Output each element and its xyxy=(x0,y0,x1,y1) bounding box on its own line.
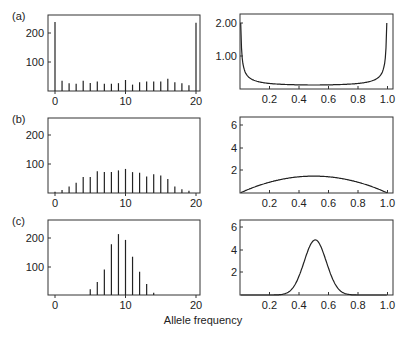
y-tick-label: 100 xyxy=(26,56,44,68)
x-tick-label: 10 xyxy=(119,299,131,311)
density-curve xyxy=(241,176,387,193)
y-tick-label: 200 xyxy=(26,129,44,141)
x-tick-label: 0.8 xyxy=(350,93,365,105)
density-curve xyxy=(241,240,387,295)
x-tick-label: 0.8 xyxy=(350,197,365,209)
x-tick-label: 10 xyxy=(119,95,131,107)
density-chart-(b): 2460.20.40.60.81.0 xyxy=(231,117,395,209)
x-tick-label: 0.6 xyxy=(321,299,336,311)
y-tick-label: 2 xyxy=(231,164,237,176)
x-tick-label: 0.2 xyxy=(262,197,277,209)
y-tick-label: 200 xyxy=(26,232,44,244)
x-tick-label: 0.4 xyxy=(291,93,306,105)
y-tick-label: 1.00 xyxy=(216,50,237,62)
x-tick-label: 0.8 xyxy=(350,299,365,311)
y-tick-label: 100 xyxy=(26,158,44,170)
x-tick-label: 0.6 xyxy=(321,93,336,105)
y-tick-label: 2 xyxy=(231,266,237,278)
y-tick-label: 200 xyxy=(26,27,44,39)
y-tick-label: 6 xyxy=(231,221,237,233)
x-axis-label: Allele frequency xyxy=(0,314,406,326)
x-tick-label: 1.0 xyxy=(380,299,395,311)
x-tick-label: 0.6 xyxy=(321,197,336,209)
y-tick-label: 4 xyxy=(231,244,237,256)
density-chart-(c): 2460.20.40.60.81.0 xyxy=(231,220,395,311)
x-tick-label: 20 xyxy=(190,299,202,311)
panel-label: (a) xyxy=(12,10,25,22)
x-tick-label: 20 xyxy=(190,95,202,107)
density-curve xyxy=(241,23,387,85)
x-tick-label: 0 xyxy=(52,299,58,311)
y-tick-label: 2.00 xyxy=(216,17,237,29)
panel-label: (b) xyxy=(12,113,25,125)
bar-chart-(c): 10020001020 xyxy=(26,220,202,311)
x-tick-label: 1.0 xyxy=(380,93,395,105)
bar-chart-(b): 10020001020 xyxy=(26,118,202,209)
x-tick-label: 0.4 xyxy=(291,197,306,209)
x-tick-label: 0 xyxy=(52,95,58,107)
figure: (a)100200010201.002.000.20.40.60.81.0(b)… xyxy=(0,0,406,337)
x-tick-label: 0.2 xyxy=(262,299,277,311)
density-chart-(a): 1.002.000.20.40.60.81.0 xyxy=(216,14,396,105)
x-tick-label: 10 xyxy=(119,197,131,209)
x-tick-label: 0.2 xyxy=(262,93,277,105)
x-tick-label: 1.0 xyxy=(380,197,395,209)
panel-label: (c) xyxy=(12,215,25,227)
x-tick-label: 0.4 xyxy=(291,299,306,311)
y-tick-label: 100 xyxy=(26,261,44,273)
x-tick-label: 0 xyxy=(52,197,58,209)
y-tick-label: 6 xyxy=(231,119,237,131)
x-tick-label: 20 xyxy=(190,197,202,209)
y-tick-label: 4 xyxy=(231,142,237,154)
bar-chart-(a): 10020001020 xyxy=(26,15,202,107)
